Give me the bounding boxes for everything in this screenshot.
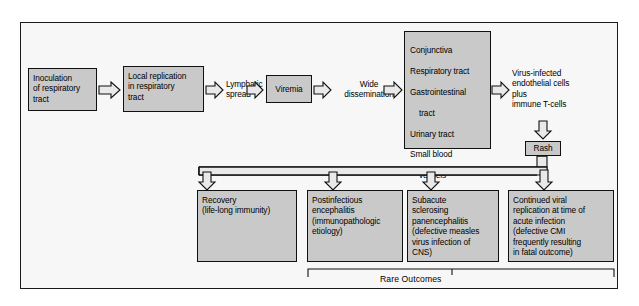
tissue-respiratory-tract: Respiratory tract	[410, 66, 487, 76]
rare-outcomes-bracket	[307, 266, 615, 278]
node-local-replication: Local replication in respiratory tract	[123, 66, 204, 112]
node-inoculation: Inoculation of respiratory tract	[28, 68, 97, 111]
arrow-bus-to-recovery	[199, 172, 215, 191]
arrow-bus-to-subacute	[423, 172, 439, 191]
arrow-endothelial-to-rash	[535, 121, 551, 140]
arrow-viremia-to-wide	[314, 82, 332, 98]
tissue-conjunctiva: Conjunctiva	[410, 45, 487, 55]
arrow-bus-to-continued-viral	[536, 170, 552, 191]
node-target-tissues: Conjunctiva Respiratory tract Gastrointe…	[404, 31, 491, 149]
arrow-wide-to-tissues	[384, 82, 403, 98]
arrow-tissues-to-endothelial	[492, 82, 510, 98]
tissue-gastrointestinal: Gastrointestinal	[410, 87, 487, 97]
node-postinfectious: Postinfectious encephalitis (immunopatho…	[307, 190, 403, 262]
diagram-canvas: Inoculation of respiratory tract Local r…	[0, 0, 639, 306]
node-continued-viral: Continued viral replication at time of a…	[508, 190, 614, 262]
arrow-inoculation-to-local	[99, 82, 121, 98]
arrow-local-to-lymphatic	[206, 82, 224, 98]
tissue-urinary-tract: Urinary tract	[410, 129, 487, 139]
node-subacute: Subacute sclerosing panencephalitis (def…	[407, 190, 499, 262]
label-virus-infected-cells: Virus-infected endothelial cells plus im…	[512, 68, 602, 110]
tissue-small-blood: Small blood	[410, 149, 487, 159]
arrow-lymphatic-to-viremia	[247, 82, 264, 98]
rare-outcomes-label: Rare Outcomes	[380, 274, 441, 284]
node-recovery: Recovery (life-long immunity)	[197, 190, 297, 262]
tissue-gastrointestinal-cont: tract	[410, 108, 487, 118]
node-rash: Rash	[525, 141, 561, 156]
node-viremia: Viremia	[266, 75, 312, 103]
arrow-bus-to-postinfectious	[325, 172, 341, 191]
